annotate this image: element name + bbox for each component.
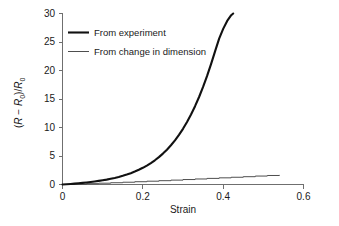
x-tick-label: 0 bbox=[60, 191, 66, 202]
legend: From experiment From change in dimension bbox=[68, 27, 206, 57]
y-tick-label: 0 bbox=[49, 179, 55, 190]
legend-label-from-change-in-dimension: From change in dimension bbox=[94, 46, 206, 57]
x-tick-label: 0.6 bbox=[297, 191, 311, 202]
x-axis-title: Strain bbox=[170, 204, 196, 215]
y-tick-label: 30 bbox=[44, 8, 56, 19]
y-axis-title-minus: − bbox=[13, 106, 24, 117]
svg-text:(R − R0)/R0: (R − R0)/R0 bbox=[13, 78, 26, 128]
y-axis-title-r1: R bbox=[13, 117, 24, 124]
series-line-from-change-in-dimension bbox=[63, 175, 280, 185]
y-tick-label: 10 bbox=[44, 122, 56, 133]
x-ticks: 0 0.2 0.4 0.6 bbox=[60, 185, 311, 202]
chart-figure: (R − R0)/R0 0 5 10 15 20 25 30 0 bbox=[0, 0, 339, 226]
y-axis-title: (R − R0)/R0 bbox=[13, 78, 26, 128]
y-tick-label: 5 bbox=[49, 150, 55, 161]
y-axis-title-r3: R bbox=[13, 82, 24, 89]
x-tick-label: 0.2 bbox=[136, 191, 150, 202]
y-ticks: 0 5 10 15 20 25 30 bbox=[44, 8, 63, 190]
series-line-from-experiment bbox=[63, 14, 234, 185]
y-tick-label: 20 bbox=[44, 65, 56, 76]
y-tick-label: 25 bbox=[44, 36, 56, 47]
y-axis-title-r2: R bbox=[13, 99, 24, 106]
y-tick-label: 15 bbox=[44, 93, 56, 104]
x-tick-label: 0.4 bbox=[216, 191, 230, 202]
chart-canvas: (R − R0)/R0 0 5 10 15 20 25 30 0 bbox=[0, 0, 339, 226]
legend-label-from-experiment: From experiment bbox=[94, 27, 166, 38]
y-axis-title-sub2: 0 bbox=[19, 78, 26, 82]
